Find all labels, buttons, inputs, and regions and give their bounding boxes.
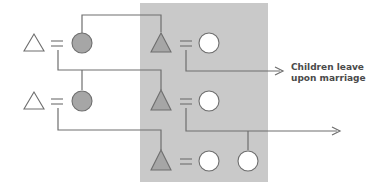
annotation-children-leave: Children leave upon marriage [291, 62, 366, 84]
kinship-diagram: Children leave upon marriage [0, 0, 372, 193]
female-filled-row2 [72, 91, 92, 111]
female-filled-row1 [72, 33, 92, 53]
annotation-line-2: upon marriage [291, 73, 366, 84]
female-open-row3-wife [199, 151, 219, 171]
female-open-row1 [199, 33, 219, 53]
diagram-canvas [0, 0, 372, 193]
female-open-row3-daughter [238, 151, 258, 171]
marriage-sign-row1-left [51, 41, 63, 46]
male-open-row1 [24, 34, 44, 51]
female-open-row2 [199, 91, 219, 111]
male-open-row2 [24, 92, 44, 109]
marriage-sign-row2-left [51, 99, 63, 104]
annotation-line-1: Children leave [291, 62, 366, 73]
